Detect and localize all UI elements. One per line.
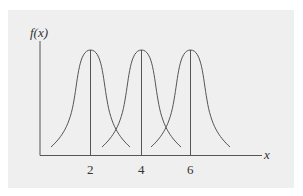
density-curves-diagram: f(x) x 2 4 6: [0, 0, 303, 196]
tick-label-4: 4: [138, 162, 145, 177]
x-axis-label: x: [263, 147, 270, 162]
y-axis-label: f(x): [30, 25, 48, 40]
tick-label-6: 6: [187, 162, 194, 177]
tick-label-2: 2: [87, 162, 94, 177]
